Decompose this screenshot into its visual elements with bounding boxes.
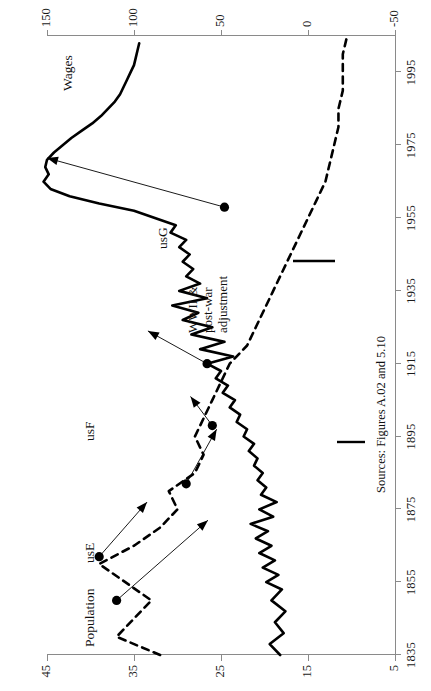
x-tick-label: 1875 <box>404 486 419 532</box>
y-right-tick-label: 150 <box>39 0 54 27</box>
y-left-tick-label: 15 <box>300 665 315 691</box>
y-right-tick-label: 50 <box>213 0 228 27</box>
series-label-usF: usF <box>82 421 98 441</box>
pop-marker-1882 <box>182 479 191 488</box>
leader-arrow-1862 <box>99 502 147 557</box>
y-left-tick-label: 35 <box>126 665 141 691</box>
annotation-wwii-line1: WWII & <box>186 286 201 333</box>
x-tick <box>395 290 401 291</box>
y-right-tick-label: -50 <box>387 0 402 27</box>
y-right-tick <box>395 30 396 36</box>
source-note: Sources: Figures A.02 and 5.10 <box>374 336 389 493</box>
y-right-tick-label: 0 <box>300 0 315 27</box>
x-tick <box>395 363 401 364</box>
x-tick-label: 1975 <box>404 122 419 168</box>
y-left-tick-label: 5 <box>387 665 402 691</box>
y-left-tick <box>134 655 135 661</box>
x-tick <box>395 436 401 437</box>
x-tick-label: 1835 <box>404 632 419 678</box>
series-label-usE: usE <box>82 543 98 563</box>
plot-area <box>47 36 395 655</box>
chart-figure: 183518551875189519151935195519751995 515… <box>0 0 431 691</box>
leader-arrow-1882 <box>186 429 216 484</box>
wages-series-line <box>44 43 286 655</box>
wages-marker-1958 <box>220 203 229 212</box>
series-label-population: Population <box>82 588 98 647</box>
rotated-chart-container: 183518551875189519151935195519751995 515… <box>0 0 431 691</box>
population-series-line <box>99 36 347 655</box>
x-tick-label: 1855 <box>404 559 419 605</box>
y-left-tick-label: 45 <box>39 665 54 691</box>
y-left-tick <box>47 655 48 661</box>
annotation-wwii-line2: post-war <box>201 288 216 334</box>
y-right-tick-label: 100 <box>126 0 141 27</box>
leader-arrow-1850 <box>117 520 208 600</box>
series-label-usG: usG <box>155 227 171 249</box>
x-tick <box>395 144 401 145</box>
x-tick <box>395 217 401 218</box>
wages-marker-1915 <box>202 359 211 368</box>
x-tick-label: 1895 <box>404 414 419 460</box>
leader-arrow-wwii <box>47 157 224 207</box>
x-tick <box>395 71 401 72</box>
x-tick-label: 1915 <box>404 341 419 387</box>
annotation-wwii-line3: adjustment <box>216 276 231 333</box>
x-tick-label: 1995 <box>404 49 419 95</box>
pop-marker-1898 <box>208 421 217 430</box>
pop-marker-1850 <box>112 596 121 605</box>
y-left-tick <box>221 655 222 661</box>
series-label-wages: Wages <box>60 55 76 91</box>
x-axis-line <box>395 35 396 655</box>
y-left-tick <box>308 655 309 661</box>
y-left-tick <box>395 655 396 661</box>
x-tick <box>395 581 401 582</box>
x-tick-label: 1955 <box>404 195 419 241</box>
annotation-leader-lines <box>47 157 224 601</box>
x-tick <box>395 508 401 509</box>
x-tick-label: 1935 <box>404 268 419 314</box>
y-left-tick-label: 25 <box>213 665 228 691</box>
data-point-markers <box>95 203 229 605</box>
